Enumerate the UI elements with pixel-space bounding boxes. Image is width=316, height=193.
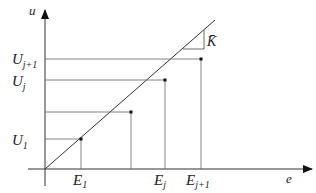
x-axis-label: e [286, 171, 292, 186]
y-tick-uj: Uj [12, 73, 26, 92]
point-j1 [200, 58, 203, 61]
x-tick-ej: Ej [153, 172, 166, 190]
y-tick-u1: U1 [12, 132, 28, 151]
x-tick-ej1: Ej+1 [185, 172, 210, 190]
point-j [164, 79, 167, 82]
x-tick-e1: E1 [72, 172, 87, 190]
quantization-diagram: K̄ u e Uj+1 Uj U1 E1 Ej Ej+1 [0, 0, 316, 193]
point-1 [80, 138, 83, 141]
slope-label: K̄ [206, 34, 217, 49]
point-2 [130, 111, 133, 114]
diagonal-line [45, 20, 215, 169]
y-tick-uj1: Uj+1 [12, 51, 37, 70]
y-axis-label: u [29, 3, 36, 18]
